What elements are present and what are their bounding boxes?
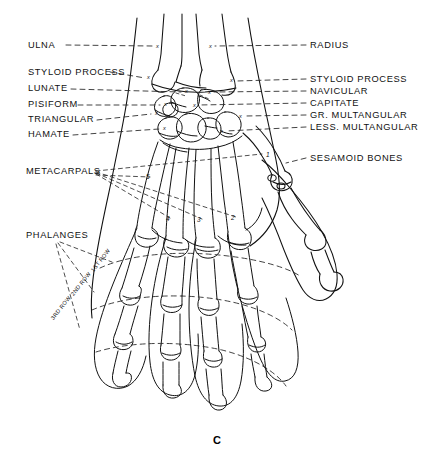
x-marker: x <box>209 43 212 49</box>
x-marker: x <box>185 88 188 94</box>
x-marker: x <box>164 101 167 107</box>
metacarpal-number-3: 3 <box>197 216 201 223</box>
label-sesamoid-bones: SESAMOID BONES <box>310 154 403 163</box>
x-marker: x <box>156 43 159 49</box>
x-marker: x <box>193 102 196 108</box>
figure-root: ULNA STYLOID PROCESS LUNATE PISIFORM TRI… <box>0 0 432 475</box>
x-marker: x <box>155 110 158 116</box>
soft-tissue-outline <box>91 18 279 318</box>
label-pisiform: PISIFORM <box>28 100 78 109</box>
label-lunate: LUNATE <box>28 84 68 93</box>
ulna-radius <box>152 14 236 95</box>
row-arcs <box>92 253 300 386</box>
x-marker: x <box>220 128 223 134</box>
label-phalanges: PHALANGES <box>26 231 88 240</box>
label-hamate: HAMATE <box>28 130 70 139</box>
figure-caption: C <box>213 434 221 446</box>
metacarpal-number-1: 1 <box>266 151 270 158</box>
phalanges <box>94 228 298 410</box>
carpal-bones <box>154 88 241 142</box>
label-metacarpals: METACARPALS <box>26 167 101 176</box>
palm-contours <box>152 208 262 247</box>
label-triangular: TRIANGULAR <box>28 115 94 124</box>
metacarpal-number-5: 5 <box>146 173 150 180</box>
label-styloid-process-radial: STYLOID PROCESS <box>310 75 407 84</box>
x-marker: x <box>230 77 233 83</box>
x-marker: x <box>147 74 150 80</box>
label-radius: RADIUS <box>310 41 349 50</box>
leader-lines-right <box>199 45 306 163</box>
metacarpal-number-4: 4 <box>166 215 170 222</box>
x-marker: x <box>239 113 242 119</box>
metacarpal-number-2: 2 <box>231 214 235 221</box>
x-marker: x <box>208 89 211 95</box>
label-greater-multangular: GR. MULTANGULAR <box>310 111 407 120</box>
label-lesser-multangular: LESS. MULTANGULAR <box>310 123 418 132</box>
x-marker: x <box>163 125 166 131</box>
metacarpals <box>135 142 251 258</box>
label-ulna: ULNA <box>28 41 55 50</box>
label-styloid-process-ulnar: STYLOID PROCESS <box>28 68 125 77</box>
metacarpal-leaders <box>96 154 262 219</box>
label-capitate: CAPITATE <box>310 99 359 108</box>
label-navicular: NAVICULAR <box>310 87 368 96</box>
